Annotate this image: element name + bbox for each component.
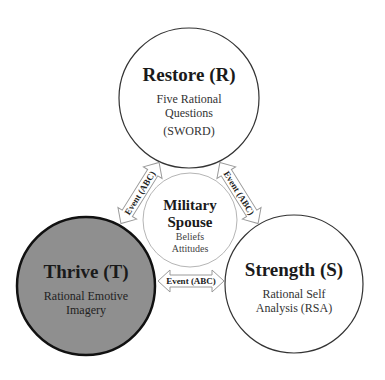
strength-title: Strength (S) xyxy=(224,259,364,281)
center-title-1: Military xyxy=(145,197,235,214)
thrive-node: Thrive (T) Rational Emotive Imagery xyxy=(16,261,156,317)
strength-sub-1: Rational Self xyxy=(224,287,364,301)
restore-sub-2: Questions xyxy=(119,106,259,120)
diagram-canvas xyxy=(0,0,385,380)
thrive-sub-1: Rational Emotive xyxy=(16,289,156,303)
thrive-sub-2: Imagery xyxy=(16,303,156,317)
arrow-label-bottom: Event (ABC) xyxy=(166,276,216,286)
restore-sub-3: (SWORD) xyxy=(119,124,259,138)
thrive-title: Thrive (T) xyxy=(16,261,156,283)
center-title-2: Spouse xyxy=(145,214,235,231)
strength-sub-2: Analysis (RSA) xyxy=(224,301,364,315)
military-spouse-node: Military Spouse Beliefs Attitudes xyxy=(145,197,235,255)
strength-node: Strength (S) Rational Self Analysis (RSA… xyxy=(224,259,364,315)
restore-title: Restore (R) xyxy=(119,64,259,86)
center-sub-1: Beliefs xyxy=(145,231,235,243)
center-sub-2: Attitudes xyxy=(145,243,235,255)
restore-sub-1: Five Rational xyxy=(119,92,259,106)
restore-node: Restore (R) Five Rational Questions (SWO… xyxy=(119,64,259,138)
